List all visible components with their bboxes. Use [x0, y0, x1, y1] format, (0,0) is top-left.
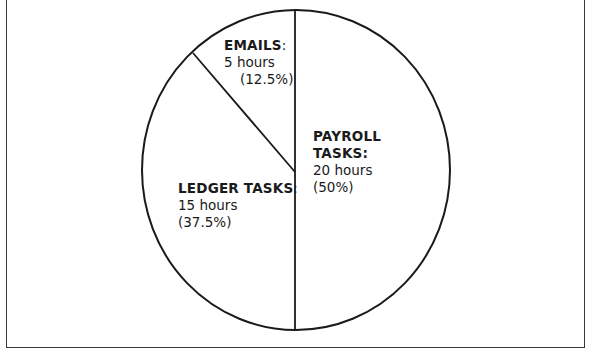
ledger-colon: : [293, 180, 298, 196]
slice-label-emails: EMAILS: 5 hours (12.5%) [224, 37, 293, 88]
slice-label-ledger: LEDGER TASKS: 15 hours (37.5%) [178, 180, 298, 231]
pie-chart [0, 0, 591, 357]
emails-hours: 5 hours [224, 54, 293, 71]
payroll-percent: (50%) [313, 179, 381, 196]
ledger-percent: (37.5%) [178, 214, 298, 231]
ledger-category: LEDGER TASKS [178, 180, 293, 196]
payroll-category-line1: PAYROLL [313, 128, 381, 145]
pie-outline [142, 10, 450, 330]
payroll-hours: 20 hours [313, 162, 381, 179]
emails-colon: : [282, 37, 287, 53]
payroll-category-line2: TASKS: [313, 145, 381, 162]
emails-percent: (12.5%) [224, 71, 293, 88]
emails-category: EMAILS [224, 37, 282, 53]
slice-label-payroll: PAYROLL TASKS: 20 hours (50%) [313, 128, 381, 196]
ledger-hours: 15 hours [178, 197, 298, 214]
